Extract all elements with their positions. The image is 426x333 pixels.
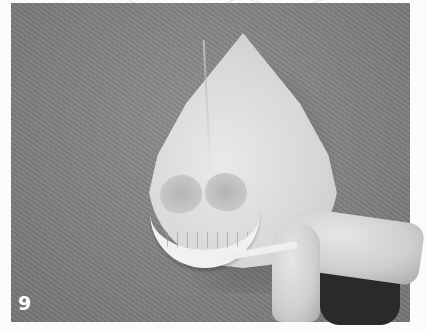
step-number-label: 9 (18, 292, 31, 314)
thumb (272, 222, 320, 322)
teeth (158, 232, 248, 248)
